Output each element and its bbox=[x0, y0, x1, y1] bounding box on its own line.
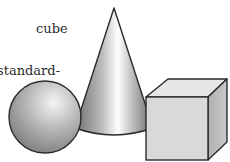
geometric-shapes-figure bbox=[0, 0, 230, 162]
sphere-shape bbox=[9, 81, 81, 153]
cone-shape bbox=[75, 8, 153, 135]
cube-shape bbox=[146, 79, 227, 160]
